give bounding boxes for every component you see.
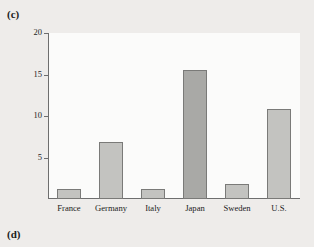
bar-italy <box>141 189 165 199</box>
y-tick-label: 5 <box>22 153 42 162</box>
category-label-sweden: Sweden <box>216 201 258 215</box>
y-tick-label: 15 <box>22 70 42 79</box>
y-tick-label: 10 <box>22 111 42 120</box>
category-label-japan: Japan <box>174 201 216 215</box>
bar-chart-panel-c: 5101520 FranceGermanyItalyJapanSwedenU.S… <box>0 0 314 225</box>
category-label-u-s: U.S. <box>258 201 300 215</box>
bar-sweden <box>225 184 249 199</box>
panel-label-c: (c) <box>7 8 19 20</box>
category-label-italy: Italy <box>132 201 174 215</box>
panel-label-d: (d) <box>7 228 20 240</box>
category-label-france: France <box>48 201 90 215</box>
category-label-germany: Germany <box>90 201 132 215</box>
bar-france <box>57 189 81 199</box>
bar-series <box>48 33 300 199</box>
bar-germany <box>99 142 123 199</box>
bar-u-s <box>267 109 291 199</box>
y-tick-label: 20 <box>22 28 42 37</box>
bar-japan <box>183 70 207 199</box>
x-axis-category-labels: FranceGermanyItalyJapanSwedenU.S. <box>48 201 300 217</box>
